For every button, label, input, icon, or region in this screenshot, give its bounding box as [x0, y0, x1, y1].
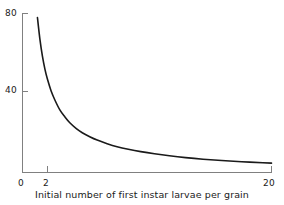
plot-area: [0, 0, 284, 205]
x-tick-label-20: 20: [263, 179, 275, 188]
y-tick-label-40: 40: [5, 86, 17, 95]
x-tick-label-2: 2: [43, 179, 49, 188]
y-tick-label-80: 80: [5, 9, 17, 18]
x-tick-label-0: 0: [18, 179, 24, 188]
chart-figure: 80 40 0 2 20 Initial number of first ins…: [0, 0, 284, 205]
x-axis-title: Initial number of first instar larvae pe…: [0, 190, 284, 200]
data-curve-line: [37, 17, 271, 163]
